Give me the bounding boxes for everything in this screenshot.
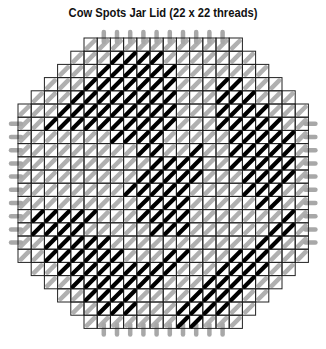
needlepoint-chart: [0, 0, 326, 349]
